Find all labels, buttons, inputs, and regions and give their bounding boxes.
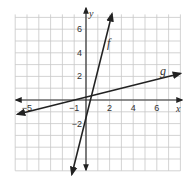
y-tick-label: −2 xyxy=(72,119,82,129)
y-tick-label: 4 xyxy=(77,48,82,58)
line-f-label: f xyxy=(107,36,112,50)
x-tick-label: −1 xyxy=(69,103,79,113)
x-axis-label: x xyxy=(175,103,181,114)
y-tick-label: 6 xyxy=(77,24,82,34)
grid xyxy=(15,14,180,170)
x-tick-label: 6 xyxy=(154,103,159,113)
x-tick-label: 4 xyxy=(131,103,136,113)
coordinate-plane: −5−1246642−2 x y f g xyxy=(0,0,186,179)
line-f xyxy=(72,14,112,174)
y-tick-label: 2 xyxy=(77,71,82,81)
x-tick-label: 2 xyxy=(107,103,112,113)
line-g-label: g xyxy=(160,64,166,78)
y-axis-label: y xyxy=(88,8,94,19)
